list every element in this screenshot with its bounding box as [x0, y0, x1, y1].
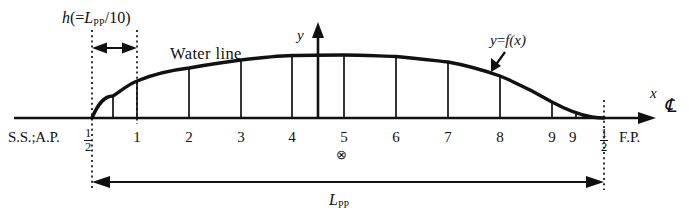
lpp-dimension-label: LPP [329, 192, 349, 210]
x-axis-arrowhead [638, 112, 656, 124]
half-fwd-denominator: 2 [600, 141, 608, 154]
y-axis-arrowhead [312, 22, 324, 38]
station-label-9-repeat: 9 [569, 130, 577, 145]
aft-perpendicular-label: S.S.;A.P. [8, 130, 60, 145]
station-label-4: 4 [279, 130, 305, 145]
fx-arg: (x) [509, 32, 526, 48]
waterline-label: Water line [170, 46, 242, 63]
half-fwd-numerator: 1 [600, 127, 608, 141]
station-label-3: 3 [228, 130, 254, 145]
y-axis-label: y [297, 28, 304, 43]
fx-y: y [490, 32, 497, 48]
h-symbol: h [62, 9, 70, 26]
station-label-half-aft: 12 [84, 127, 92, 154]
centerline-symbol: ℄ [664, 96, 676, 115]
curve-equation-label: y=f(x) [490, 33, 526, 48]
h-dimension-arrow [92, 43, 137, 54]
station-label-6: 6 [383, 130, 409, 145]
station-label-2: 2 [176, 130, 202, 145]
station-label-1: 1 [124, 130, 150, 145]
fx-equals: = [497, 32, 505, 48]
station-label-9: 9 [539, 130, 565, 145]
forward-perpendicular-label: F.P. [619, 130, 640, 145]
h-expr-L: L [84, 9, 93, 26]
station-label-5: 5 [331, 130, 357, 145]
half-aft-numerator: 1 [84, 127, 92, 141]
h-expr-close: /10) [105, 9, 131, 26]
fx-leader-arrow [491, 52, 505, 72]
h-spacing-label: h(=LPP/10) [62, 10, 130, 28]
station-label-half-fwd: 12 [600, 127, 608, 154]
lpp-arrowhead-right [586, 176, 604, 188]
h-expr-subscript: PP [93, 17, 104, 28]
diagram-root: h(=LPP/10) Water line y x ℄ y=f(x) S.S.;… [0, 0, 689, 223]
ordinate-lines-group [113, 55, 576, 118]
half-aft-denominator: 2 [84, 141, 92, 154]
midship-symbol: ⊗ [336, 148, 347, 161]
lpp-dimension-arrow [92, 176, 604, 188]
half-aft-fraction: 12 [84, 127, 92, 154]
station-label-8: 8 [487, 130, 513, 145]
waterline-diagram-svg [0, 0, 689, 223]
half-fwd-fraction: 12 [600, 127, 608, 154]
lpp-subscript: PP [338, 199, 349, 210]
station-label-7: 7 [435, 130, 461, 145]
x-axis-label: x [650, 86, 657, 101]
x-axis-group [14, 112, 656, 124]
h-arrowhead-right [122, 43, 137, 54]
lpp-arrowhead-left [92, 176, 110, 188]
y-axis-group [312, 22, 324, 118]
lpp-L: L [329, 191, 338, 208]
h-expr-open: (= [70, 9, 84, 26]
h-arrowhead-left [92, 43, 107, 54]
waterline-curve [92, 55, 604, 118]
